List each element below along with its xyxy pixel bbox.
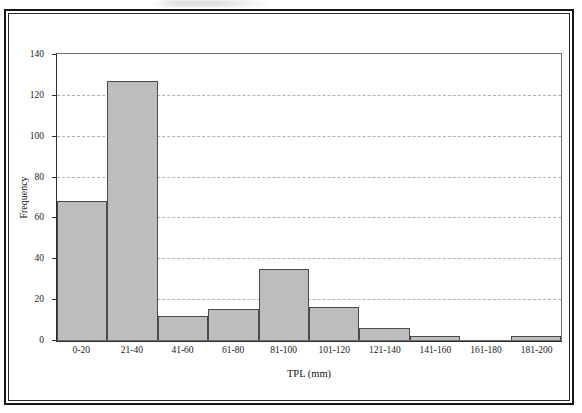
y-axis-title-label: Frequency <box>18 176 29 218</box>
bar-slot <box>57 54 107 340</box>
bar-slot <box>107 54 157 340</box>
bar-slot <box>511 54 561 340</box>
histogram-bar <box>208 309 258 340</box>
x-axis-tick-label: 21-40 <box>107 345 158 356</box>
y-axis-tick-label: 0 <box>39 336 44 346</box>
y-axis-tick-label: 20 <box>35 295 45 305</box>
y-axis-title: Frequency <box>16 53 30 341</box>
plot-area: 020406080100120140 <box>56 53 562 341</box>
x-axis-tick-label: 0-20 <box>56 345 107 356</box>
x-axis-tick-label: 141-160 <box>410 345 461 356</box>
bar-slot <box>309 54 359 340</box>
x-axis-tick-label: 41-60 <box>157 345 208 356</box>
y-axis-tick-label: 140 <box>30 50 44 60</box>
x-axis-tick-label: 161-180 <box>461 345 512 356</box>
histogram-bar <box>259 269 309 341</box>
histogram-bar <box>410 336 460 340</box>
y-axis-tick-label: 100 <box>30 132 44 142</box>
x-axis-tick-label: 101-120 <box>309 345 360 356</box>
x-axis-title: TPL (mm) <box>56 368 562 379</box>
x-axis-tick-label: 181-200 <box>511 345 562 356</box>
y-axis-tick-label: 120 <box>30 91 44 101</box>
bar-slot <box>410 54 460 340</box>
histogram-chart: Frequency 020406080100120140 0-2021-4041… <box>10 16 568 398</box>
histogram-bar <box>158 316 208 341</box>
bar-slot <box>259 54 309 340</box>
scan-artifact <box>152 0 272 7</box>
page-canvas: Frequency 020406080100120140 0-2021-4041… <box>0 0 582 413</box>
x-axis-tick-label: 121-140 <box>360 345 411 356</box>
histogram-bar <box>57 201 107 340</box>
x-axis-tick-label: 61-80 <box>208 345 259 356</box>
bar-series <box>57 54 561 340</box>
bar-slot <box>460 54 510 340</box>
histogram-bar <box>359 328 409 340</box>
bar-slot <box>208 54 258 340</box>
y-axis-tick-label: 60 <box>35 214 45 224</box>
x-axis-line <box>56 341 562 342</box>
x-axis-tick-label: 81-100 <box>258 345 309 356</box>
bar-slot <box>158 54 208 340</box>
histogram-bar <box>511 336 561 340</box>
x-axis-tick-labels: 0-2021-4041-6061-8081-100101-120121-1401… <box>56 345 562 356</box>
y-axis-tick-label: 80 <box>35 173 45 183</box>
histogram-bar <box>309 307 359 340</box>
bar-slot <box>359 54 409 340</box>
y-axis-tick-label: 40 <box>35 255 45 265</box>
histogram-bar <box>107 81 157 340</box>
